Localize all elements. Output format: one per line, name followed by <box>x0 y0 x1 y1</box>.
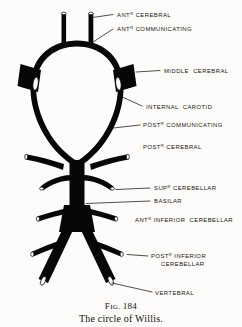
superior-cerebellar-right-vessel <box>84 175 115 191</box>
caption-number: FIG. 184 <box>105 301 138 311</box>
label-post-inferior-cerebellar-line2: CEREBELLAR <box>161 261 204 267</box>
leader-post-communicating <box>114 125 141 128</box>
leader-ant-cerebral <box>93 15 113 18</box>
label-post-cerebral: POSTR CEREBRAL <box>143 143 202 150</box>
superior-cerebellar-left-vessel <box>40 175 71 191</box>
label-internal-carotid: INTERNAL CAROTID <box>146 104 212 110</box>
label-sup-cerebellar: SUPR CEREBELLAR <box>154 184 216 191</box>
label-middle-cerebral: MIDDLE CEREBRAL <box>164 68 229 74</box>
leader-basilar <box>86 201 150 204</box>
leader-ant-communicating <box>90 29 113 44</box>
posterior-cerebral-right-vessel <box>90 154 129 170</box>
leader-middle-cerebral <box>136 71 160 73</box>
leader-vertebral <box>112 283 152 292</box>
label-ant-cerebral: ANTR CEREBRAL <box>117 11 171 18</box>
label-post-inferior-cerebellar: POSTR INFERIOR <box>151 252 206 259</box>
vertebral-left-vessel <box>39 222 75 286</box>
label-post-communicating: POSTR COMMUNICATING <box>143 121 223 128</box>
anterior-cerebral-right-vessel <box>89 12 94 45</box>
anterior-cerebral-left-vessel <box>62 12 67 45</box>
vertebral-right-vessel <box>80 222 116 286</box>
vessel-artwork <box>18 12 137 286</box>
label-vertebral: VERTEBRAL <box>155 290 194 296</box>
label-texts: ANTR CEREBRAL ANTR COMMUNICATING MIDDLE … <box>117 11 233 296</box>
leader-internal-carotid <box>120 96 142 106</box>
label-ant-communicating: ANTR COMMUNICATING <box>117 25 192 32</box>
leader-sup-cerebellar <box>116 188 150 190</box>
circle-of-willis-figure: ANTR CEREBRAL ANTR COMMUNICATING MIDDLE … <box>0 0 242 327</box>
posterior-cerebral-left-vessel <box>25 154 64 170</box>
leader-post-inferior-cerebellar <box>127 255 148 257</box>
circle-ring-vessel <box>30 41 123 168</box>
caption-title: The circle of Willis. <box>79 313 163 324</box>
figure-caption: FIG. 184 The circle of Willis. <box>79 301 163 324</box>
label-ant-inferior-cerebellar: ANTR INFERIOR CEREBELLAR <box>135 216 233 223</box>
label-basilar: BASILAR <box>154 198 182 204</box>
